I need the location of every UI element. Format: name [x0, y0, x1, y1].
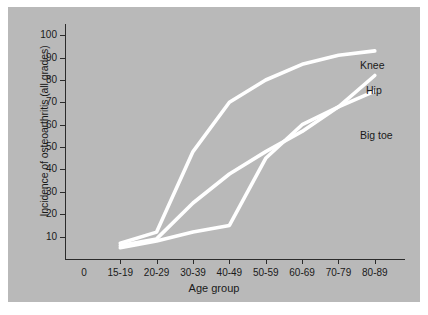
x-tick-label: 15-19 [107, 267, 133, 278]
x-tick [120, 260, 121, 264]
y-tick-label: 100 [27, 29, 57, 40]
x-tick-label: 70-79 [326, 267, 352, 278]
y-tick-label: 50 [27, 141, 57, 152]
y-tick-label: 40 [27, 163, 57, 174]
x-tick [375, 260, 376, 264]
y-tick-label: 70 [27, 96, 57, 107]
x-tick-label: 50-59 [253, 267, 279, 278]
x-tick [157, 260, 158, 264]
x-tick-label: 20-29 [144, 267, 170, 278]
series-label-big-toe: Big toe [360, 129, 393, 141]
y-tick-label: 10 [27, 231, 57, 242]
x-tick [338, 260, 339, 264]
y-tick-label: 80 [27, 74, 57, 85]
x-tick-label: 40-49 [217, 267, 243, 278]
x-tick-label: 30-39 [180, 267, 206, 278]
x-tick [193, 260, 194, 264]
series-line-hip [120, 76, 374, 246]
x-axis-title: Age group [8, 282, 420, 294]
y-tick-label: 60 [27, 119, 57, 130]
series-lines [65, 24, 405, 260]
series-label-knee: Knee [360, 59, 385, 71]
x-tick [229, 260, 230, 264]
x-tick-label: 80-89 [362, 267, 388, 278]
chart-figure: Incidence of osteoarthritis (all grades)… [8, 7, 420, 302]
x-tick-label: 0 [81, 267, 87, 278]
plot-area: 102030405060708090100 015-1920-2930-3940… [65, 24, 405, 260]
y-tick-label: 20 [27, 208, 57, 219]
x-tick [302, 260, 303, 264]
series-label-hip: Hip [366, 84, 382, 96]
x-tick [266, 260, 267, 264]
y-tick-label: 30 [27, 186, 57, 197]
x-tick-label: 60-69 [289, 267, 315, 278]
y-tick-label: 90 [27, 52, 57, 63]
series-line-knee [120, 51, 374, 243]
